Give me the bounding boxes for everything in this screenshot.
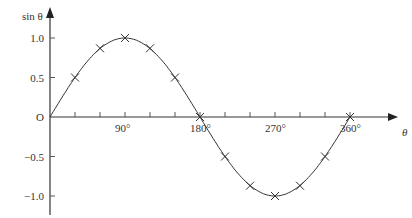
origin-label: O [36, 111, 44, 123]
y-tick-label: 1.0 [30, 32, 44, 44]
labels: sin θ θ O 90°180°270°360°1.00.5−0.5−1.0 [22, 10, 408, 202]
sine-chart: sin θ θ O 90°180°270°360°1.00.5−0.5−1.0 [0, 0, 412, 218]
x-tick-label: 180° [190, 122, 211, 134]
axes [46, 7, 398, 215]
x-tick-label: 270° [265, 122, 286, 134]
y-tick-label: −1.0 [24, 190, 44, 202]
x-tick-label: 90° [115, 122, 130, 134]
y-tick-label: 0.5 [30, 72, 44, 84]
x-axis-label: θ [402, 126, 408, 138]
y-tick-label: −0.5 [24, 151, 44, 163]
y-axis-label: sin θ [22, 10, 43, 22]
